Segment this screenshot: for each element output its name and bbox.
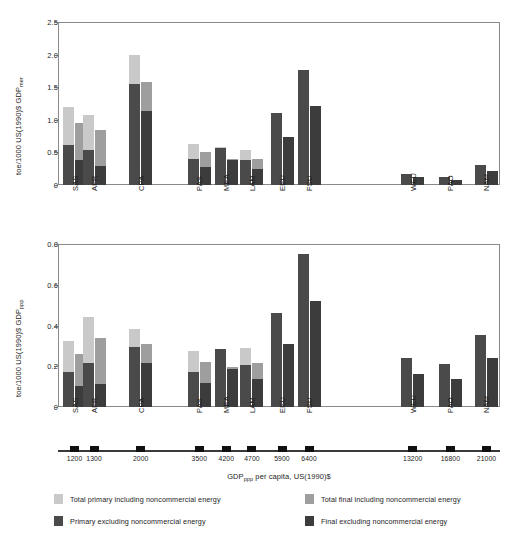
category-label-cpa: CPA bbox=[137, 176, 146, 191]
category-label-pao: PAO bbox=[446, 175, 455, 191]
legend-swatch-total-final bbox=[305, 494, 314, 504]
gdp-tick-label: 5900 bbox=[274, 455, 290, 462]
y-axis-label-mer: toe/1000 US(1990)$ GDPmer bbox=[14, 77, 23, 175]
bar-segment-total-final bbox=[141, 82, 152, 111]
y-tick-mark bbox=[54, 185, 58, 186]
chart-legend: Total primary including noncommercial en… bbox=[0, 494, 512, 540]
bar-segment-excl-primary bbox=[298, 70, 309, 185]
bar-sas-primary bbox=[63, 107, 74, 185]
category-label-pas: PAS bbox=[195, 398, 204, 413]
category-label-nam: NAM bbox=[482, 396, 491, 413]
bar-segment-excl-primary bbox=[271, 313, 282, 407]
y-tick-label: 0.4 bbox=[0, 321, 62, 330]
chart-panel-ppp: 00.20.40.60.8 SASAFRCPAPASMEALAMEEUFSUWE… bbox=[0, 222, 512, 442]
bar-segment-total-final bbox=[95, 130, 106, 166]
chart-panel-mer: 00.51.01.52.02.5 SASAFRCPAPASMEALAMEEUFS… bbox=[0, 0, 512, 220]
y-tick-mark bbox=[54, 55, 58, 56]
category-label-pas: PAS bbox=[195, 176, 204, 191]
gdp-tick-mark bbox=[446, 446, 455, 452]
category-label-mea: MEA bbox=[222, 396, 231, 413]
gdp-tick-mark bbox=[90, 446, 99, 452]
bar-segment-total-primary bbox=[188, 351, 199, 372]
gdp-tick-mark bbox=[247, 446, 256, 452]
bar-segment-total-final bbox=[95, 338, 106, 384]
y-tick-mark bbox=[54, 22, 58, 23]
bar-segment-total-primary bbox=[83, 115, 94, 151]
category-label-eeu: EEU bbox=[278, 175, 287, 191]
gdp-tick-label: 1200 bbox=[67, 455, 83, 462]
category-label-weu: WEU bbox=[409, 173, 418, 191]
category-label-afr: AFR bbox=[90, 397, 99, 413]
gdp-tick-label: 13200 bbox=[403, 455, 422, 462]
bar-segment-total-primary bbox=[63, 107, 74, 144]
category-label-nam: NAM bbox=[482, 174, 491, 191]
y-tick-mark bbox=[54, 87, 58, 88]
y-tick-label: 0.2 bbox=[0, 362, 62, 371]
y-tick-mark bbox=[54, 152, 58, 153]
bar-segment-total-final bbox=[200, 152, 211, 167]
bar-segment-total-primary bbox=[129, 55, 140, 84]
gdp-axis-caption: GDPppp per capita, US(1990)$ bbox=[58, 472, 500, 481]
legend-swatch-primary-excl bbox=[54, 516, 63, 526]
bar-segment-total-primary bbox=[240, 150, 251, 160]
bar-eeu-primary bbox=[271, 313, 282, 407]
y-tick-label: 0.5 bbox=[0, 148, 62, 157]
bar-fsu-final bbox=[310, 301, 321, 407]
legend-label-total-primary: Total primary including noncommercial en… bbox=[70, 495, 221, 504]
gdp-tick-mark bbox=[195, 446, 204, 452]
category-label-mea: MEA bbox=[222, 174, 231, 191]
category-label-weu: WEU bbox=[409, 395, 418, 413]
legend-swatch-final-excl bbox=[305, 516, 314, 526]
gdp-tick-mark bbox=[305, 446, 314, 452]
bar-segment-excl-primary bbox=[298, 254, 309, 407]
y-tick-label: 2.5 bbox=[0, 18, 62, 27]
energy-intensity-figure: 00.51.01.52.02.5 SASAFRCPAPASMEALAMEEUFS… bbox=[0, 0, 512, 546]
y-tick-label: 0 bbox=[0, 181, 62, 190]
gdp-tick-mark bbox=[70, 446, 79, 452]
y-tick-label: 2.0 bbox=[0, 50, 62, 59]
bar-fsu-final bbox=[310, 106, 321, 185]
legend-label-final-excl: Final excluding noncommercial energy bbox=[321, 517, 447, 526]
gdp-tick-label: 3500 bbox=[192, 455, 208, 462]
y-tick-label: 0.6 bbox=[0, 280, 62, 289]
bar-segment-excl-final bbox=[141, 111, 152, 185]
bar-segment-total-primary bbox=[188, 144, 199, 159]
bar-afr-primary bbox=[83, 317, 94, 407]
y-tick-label: 0.8 bbox=[0, 240, 62, 249]
bar-fsu-primary bbox=[298, 254, 309, 407]
gdp-tick-label: 16800 bbox=[441, 455, 460, 462]
gdp-tick-label: 1300 bbox=[86, 455, 102, 462]
y-tick-mark bbox=[54, 244, 58, 245]
y-tick-label: 1.5 bbox=[0, 83, 62, 92]
gdp-tick-label: 2000 bbox=[133, 455, 149, 462]
bar-cpa-primary bbox=[129, 55, 140, 185]
bar-segment-total-primary bbox=[129, 329, 140, 347]
y-tick-label: 0 bbox=[0, 403, 62, 412]
bar-segment-total-primary bbox=[240, 348, 251, 365]
gdp-tick-mark bbox=[222, 446, 231, 452]
category-label-eeu: EEU bbox=[278, 397, 287, 413]
y-tick-mark bbox=[54, 285, 58, 286]
y-tick-mark bbox=[54, 407, 58, 408]
bar-segment-total-final bbox=[200, 362, 211, 382]
category-label-fsu: FSU bbox=[305, 397, 314, 413]
legend-swatch-total-primary bbox=[54, 494, 63, 504]
bar-segment-total-primary bbox=[63, 341, 74, 373]
gdp-tick-label: 6400 bbox=[301, 455, 317, 462]
y-tick-mark bbox=[54, 326, 58, 327]
bar-cpa-primary bbox=[129, 329, 140, 407]
gdp-tick-mark bbox=[136, 446, 145, 452]
category-label-sas: SAS bbox=[71, 397, 80, 413]
category-label-sas: SAS bbox=[71, 175, 80, 191]
legend-item-total-primary: Total primary including noncommercial en… bbox=[54, 494, 221, 504]
gdp-tick-label: 4700 bbox=[244, 455, 260, 462]
legend-label-total-final: Total final including noncommercial ener… bbox=[321, 495, 461, 504]
legend-item-final-excl: Final excluding noncommercial energy bbox=[305, 516, 447, 526]
bar-segment-excl-primary bbox=[129, 84, 140, 185]
category-label-fsu: FSU bbox=[305, 175, 314, 191]
bar-segment-total-final bbox=[141, 344, 152, 363]
legend-item-total-final: Total final including noncommercial ener… bbox=[305, 494, 461, 504]
bar-segment-total-final bbox=[252, 363, 263, 379]
legend-label-primary-excl: Primary excluding noncommercial energy bbox=[70, 517, 206, 526]
y-axis-label-ppp: toe/1000 US(1990)$ GDPppp bbox=[14, 299, 23, 397]
